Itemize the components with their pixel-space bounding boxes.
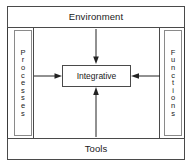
left-column-divider — [33, 28, 34, 138]
diagram-canvas: Environment Tools P r o c e s s e s F u … — [0, 0, 193, 168]
functions-letter: s — [171, 110, 175, 118]
environment-label: Environment — [69, 12, 123, 22]
arrow-tools-to-integrative — [92, 87, 100, 137]
processes-letter: s — [21, 110, 25, 118]
tools-box: Tools — [7, 138, 185, 160]
processes-label-vertical: P r o c e s s e s — [20, 49, 25, 118]
integrative-label: Integrative — [77, 72, 117, 81]
arrow-functions-to-integrative — [131, 72, 160, 80]
processes-box: P r o c e s s e s — [14, 30, 32, 136]
right-column-divider — [159, 28, 160, 138]
integrative-box: Integrative — [62, 65, 131, 87]
environment-box: Environment — [7, 6, 185, 28]
arrow-environment-to-integrative — [92, 29, 100, 65]
functions-label-vertical: F u n c t i o n s — [171, 49, 176, 118]
arrow-processes-to-integrative — [34, 72, 63, 80]
functions-box: F u n c t i o n s — [164, 30, 182, 136]
tools-label: Tools — [85, 144, 108, 154]
